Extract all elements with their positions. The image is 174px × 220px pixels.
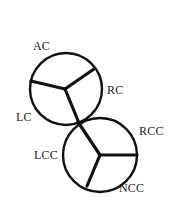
label-rc: RC <box>107 84 123 96</box>
label-lcc: LCC <box>34 149 58 161</box>
upper-branch-to-lc <box>31 81 65 89</box>
lower-branch-to-ncc <box>87 155 100 186</box>
upper-circle-group <box>30 53 102 125</box>
label-ncc: NCC <box>119 182 144 194</box>
lower-branch-to-tangent <box>78 122 100 155</box>
upper-branch-to-tangent <box>65 89 79 123</box>
label-rcc: RCC <box>139 125 164 137</box>
upper-branch-to-ac-rc <box>65 69 94 89</box>
diagram-figure: AC RC LC RCC LCC NCC <box>0 0 174 220</box>
label-ac: AC <box>33 40 50 52</box>
label-lc: LC <box>16 111 32 123</box>
